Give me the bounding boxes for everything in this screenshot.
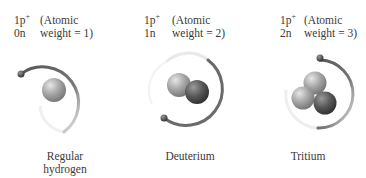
weight-line2: weight = 2) <box>172 27 225 39</box>
electron <box>18 71 25 78</box>
particle-count: 1p+ 0n <box>14 14 30 40</box>
atomic-weight: (Atomic weight = 2) <box>172 14 225 40</box>
neutron-sphere <box>185 80 209 104</box>
weight-line1: (Atomic <box>172 14 210 26</box>
proton-count: 1p <box>144 14 156 26</box>
weight-line1: (Atomic <box>304 14 342 26</box>
atomic-weight: (Atomic weight = 1) <box>40 14 93 40</box>
proton-sphere <box>42 78 66 102</box>
isotope-name: Tritium <box>250 150 366 163</box>
isotope-deuterium: 1p+ 1n (Atomic weight = 2) Deuterium <box>130 0 250 178</box>
neutron-sphere-left <box>292 87 315 110</box>
neutron-count: 1n <box>144 27 156 39</box>
electron <box>317 55 324 62</box>
charge-sign: + <box>156 12 161 21</box>
isotope-tritium: 1p+ 2n (Atomic weight = 3) Tritium <box>250 0 366 178</box>
tritium-atom-diagram <box>250 40 366 160</box>
neutron-count: 2n <box>280 27 292 39</box>
charge-sign: + <box>292 12 297 21</box>
neutron-count: 0n <box>14 27 26 39</box>
isotope-name: Regular hydrogen <box>0 150 130 176</box>
proton-count: 1p <box>280 14 292 26</box>
isotope-hydrogen: 1p+ 0n (Atomic weight = 1) Regular hydro… <box>0 0 130 178</box>
isotope-name: Deuterium <box>130 150 250 163</box>
deuterium-atom-diagram <box>130 40 250 160</box>
weight-line2: weight = 1) <box>40 27 93 39</box>
neutron-sphere-right <box>314 92 337 115</box>
name-line1: Regular <box>47 150 83 162</box>
electron <box>161 115 168 122</box>
weight-line2: weight = 3) <box>304 27 357 39</box>
name-line1: Deuterium <box>165 150 214 162</box>
particle-count: 1p+ 2n <box>280 14 296 40</box>
particle-count: 1p+ 1n <box>144 14 160 40</box>
name-line2: hydrogen <box>43 163 86 175</box>
name-line1: Tritium <box>291 150 326 162</box>
proton-count: 1p <box>14 14 26 26</box>
weight-line1: (Atomic <box>40 14 78 26</box>
hydrogen-atom-diagram <box>0 40 130 160</box>
atomic-weight: (Atomic weight = 3) <box>304 14 357 40</box>
charge-sign: + <box>26 12 31 21</box>
